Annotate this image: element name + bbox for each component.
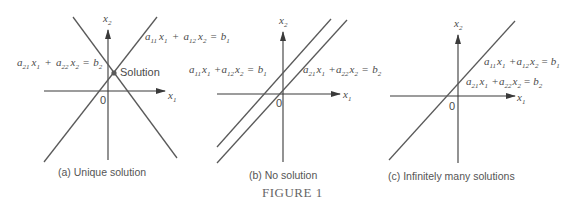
coincident-line — [389, 21, 515, 160]
x2-axis-label: x2 — [102, 12, 112, 27]
solution-point — [111, 70, 116, 75]
origin-label: 0 — [100, 94, 106, 106]
x1-axis-label: x1 — [342, 88, 351, 103]
line-equation-1 — [44, 17, 157, 162]
x1-axis-label: x1 — [167, 89, 176, 104]
panel-b-no-solution: x2 x1 0 a11x1+a12x2=b1 a21x1+a22x2=b2 (b… — [189, 14, 382, 181]
equation-1-label: a11x1+a12x2=b1 — [145, 30, 230, 45]
figure-linear-systems: x2 x1 0 Solution a11x1+a12x2=b1 a21x1+a2… — [0, 0, 580, 208]
solution-label: Solution — [120, 66, 160, 78]
panel-a-unique-solution: x2 x1 0 Solution a11x1+a12x2=b1 a21x1+a2… — [17, 12, 230, 178]
x1-axis-label: x1 — [516, 91, 525, 106]
caption-a: (a) Unique solution — [58, 166, 146, 178]
origin-label: 0 — [276, 97, 282, 109]
caption-c: (c) Infinitely many solutions — [388, 170, 515, 182]
equation-2-label: a21x1+a22x2=b2 — [303, 63, 382, 78]
equation-2-label: a21x1+a22x2=b2 — [17, 56, 103, 71]
figure-title: FIGURE 1 — [262, 185, 323, 200]
equation-1-label: a11x1+a12x2=b1 — [484, 55, 560, 70]
origin-label: 0 — [449, 100, 455, 112]
caption-b: (b) No solution — [249, 169, 317, 181]
x2-axis-label: x2 — [278, 14, 288, 29]
equation-1-label: a11x1+a12x2=b1 — [189, 63, 267, 78]
x2-axis-label: x2 — [453, 17, 463, 32]
line-equation-1 — [217, 19, 331, 147]
line-equation-2 — [217, 20, 347, 163]
panel-c-infinitely-many-solutions: x2 x1 0 a11x1+a12x2=b1 a21x1+a22x2=b2 (c… — [388, 17, 560, 182]
equation-2-label: a21x1+a22x2=b2 — [466, 75, 543, 90]
